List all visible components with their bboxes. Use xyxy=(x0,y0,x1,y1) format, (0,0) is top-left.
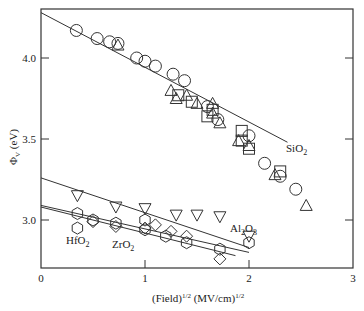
square-marker xyxy=(244,143,255,154)
x-tick-label: 3 xyxy=(350,272,356,284)
triangle-down-marker xyxy=(214,212,226,223)
data-points xyxy=(70,24,312,264)
circle-marker xyxy=(290,183,302,195)
triangle-down-marker xyxy=(110,202,122,213)
y-tick-label: 3.0 xyxy=(22,214,36,226)
y-tick-label: 3.5 xyxy=(22,133,36,145)
y-axis-label: ΦV (eV) xyxy=(7,129,22,165)
fit-line-sio2 xyxy=(41,13,287,143)
circle-marker xyxy=(274,170,286,182)
axis-ticks: 01233.03.54.0 xyxy=(22,52,356,284)
diamond-marker xyxy=(149,219,161,231)
triangle-down-marker xyxy=(191,210,203,221)
plot-frame xyxy=(41,9,353,268)
triangle-up-marker xyxy=(112,39,124,50)
circle-marker xyxy=(149,60,161,72)
circle-marker xyxy=(167,68,179,80)
triangle-down-marker xyxy=(170,210,182,221)
label-hfo2: HfO2 xyxy=(66,234,90,249)
label-al2o3: Al2O3 xyxy=(230,222,257,237)
y-tick-label: 4.0 xyxy=(22,52,36,64)
label-zro2: ZrO2 xyxy=(112,238,134,253)
chart-plot: 01233.03.54.0 SiO2 Al2O3 HfO2 ZrO2 (Fiel… xyxy=(0,0,364,311)
circle-marker xyxy=(179,75,191,87)
fit-line-zro2 xyxy=(41,207,235,256)
x-tick-label: 0 xyxy=(38,272,44,284)
circle-marker xyxy=(70,24,82,36)
x-tick-label: 2 xyxy=(246,272,252,284)
circle-marker xyxy=(131,52,143,64)
x-tick-label: 1 xyxy=(142,272,148,284)
circle-marker xyxy=(259,157,271,169)
circle-marker xyxy=(91,33,103,45)
label-sio2: SiO2 xyxy=(286,142,307,157)
x-axis-label: (Field)1/2 (MV/cm)1/2 xyxy=(152,292,245,305)
triangle-up-marker xyxy=(300,199,312,210)
hexagon-marker xyxy=(72,222,82,234)
triangle-down-marker xyxy=(71,191,83,202)
svg-text:ΦV (eV): ΦV (eV) xyxy=(7,129,22,165)
